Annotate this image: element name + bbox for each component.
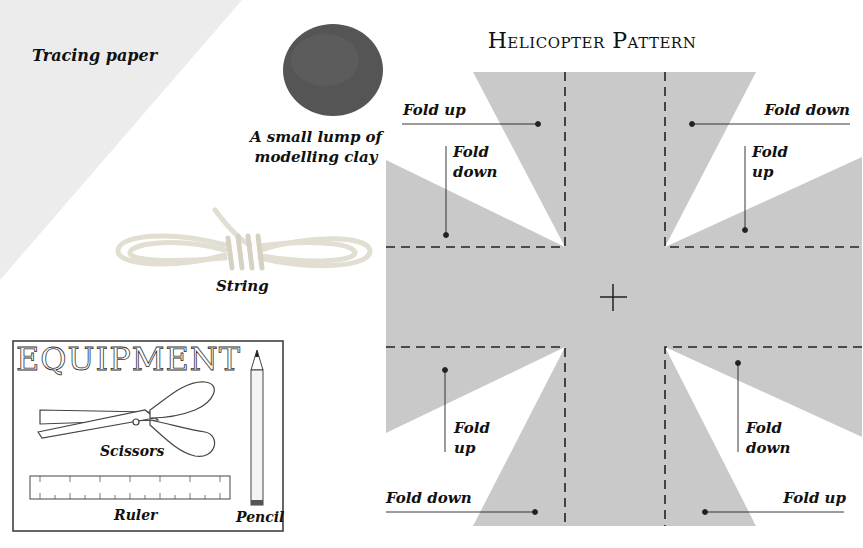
fold-label-lower-left-2: up — [454, 438, 475, 458]
tracing-paper-label: Tracing paper — [32, 46, 157, 66]
fold-label-upper-left-1: Fold — [453, 142, 489, 162]
fold-label-lower-right-1: Fold — [746, 418, 782, 438]
equipment-title: EQUIPMENT — [16, 340, 241, 378]
scissors-label: Scissors — [100, 441, 164, 461]
fold-label-lower-right-2: down — [746, 438, 790, 458]
fold-label-upper-right-2: up — [752, 162, 773, 182]
fold-label-top-right: Fold down — [740, 100, 850, 120]
fold-label-lower-left-1: Fold — [454, 418, 490, 438]
clay-label-line1: A small lump of — [232, 127, 400, 147]
clay-label-line2: modelling clay — [232, 147, 400, 167]
ruler-label: Ruler — [114, 505, 157, 525]
pencil-drawing — [251, 350, 263, 505]
ruler-drawing — [30, 476, 230, 499]
pencil-label: Pencil — [236, 507, 284, 527]
pattern-title: Helicopter Pattern — [442, 28, 742, 53]
fold-label-upper-left-2: down — [453, 162, 497, 182]
illustration-canvas — [0, 0, 863, 548]
fold-label-top-left: Fold up — [403, 100, 466, 120]
string-coil — [118, 210, 370, 268]
fold-label-bottom-left: Fold down — [386, 488, 472, 508]
string-label: String — [216, 276, 269, 296]
fold-label-bottom-right: Fold up — [740, 488, 846, 508]
fold-label-upper-right-1: Fold — [752, 142, 788, 162]
